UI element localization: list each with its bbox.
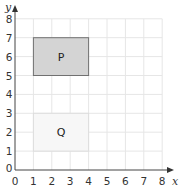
y-axis-arrow-icon [12, 5, 18, 12]
x-tick-label: 5 [104, 175, 111, 187]
x-axis-arrow-icon [167, 167, 174, 173]
y-tick-label: 3 [6, 107, 13, 119]
y-tick-label: 5 [6, 70, 13, 82]
x-tick-label: 1 [30, 175, 37, 187]
y-tick-label: 4 [6, 88, 13, 100]
x-tick-label: 7 [140, 175, 147, 187]
x-tick-label: 4 [85, 175, 92, 187]
x-axis-label: x [172, 175, 179, 188]
x-tick-label: 6 [122, 175, 129, 187]
x-tick-label: 0 [12, 175, 19, 187]
y-tick-label: 6 [6, 51, 13, 63]
y-tick-label: 8 [6, 13, 13, 25]
x-tick-label: 2 [48, 175, 55, 187]
y-tick-label: 1 [6, 145, 13, 157]
y-tick-label: 2 [6, 126, 13, 138]
x-tick-label: 3 [67, 175, 74, 187]
y-tick-label: 7 [6, 32, 13, 44]
x-tick-label: 8 [159, 175, 166, 187]
y-tick-label: 0 [6, 162, 13, 174]
rectangle-label-q: Q [57, 126, 66, 139]
coordinate-grid: PQ x y 012345678012345678 [0, 0, 183, 193]
rectangle-label-p: P [58, 51, 65, 64]
